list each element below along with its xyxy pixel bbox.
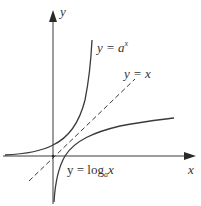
y-axis-label: y (60, 5, 66, 18)
logarithm-curve (54, 118, 174, 202)
exponential-curve (5, 40, 92, 155)
logarithm-label: y = logax (67, 163, 114, 179)
origin-point (52, 155, 54, 157)
logarithm-label-prefix: y = log (67, 162, 104, 177)
logarithm-label-var: x (108, 162, 114, 177)
y-axis-arrow-icon (49, 10, 57, 22)
x-axis-label: x (188, 163, 194, 176)
exponential-label-exponent: x (125, 39, 129, 48)
identity-label-prefix: y = (124, 66, 145, 81)
exponential-label-prefix: y = (97, 40, 118, 55)
x-axis-arrow-icon (184, 152, 196, 160)
exponential-label: y = ax (97, 40, 128, 54)
identity-label-var: x (145, 66, 151, 81)
identity-label: y = x (124, 67, 151, 80)
